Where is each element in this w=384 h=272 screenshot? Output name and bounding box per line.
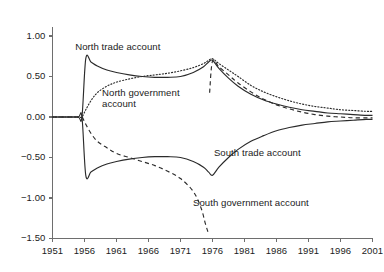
annotation-line-1: North government (102, 87, 180, 98)
series-south-trade-account (53, 113, 373, 179)
annotation-line-2: account (102, 98, 136, 109)
x-tick-label: 2001 (351, 245, 384, 256)
series-north-trade-account (53, 55, 373, 121)
annotation-south-government-account: South government account (193, 197, 309, 208)
y-tick-label: −0.50 (0, 151, 46, 162)
y-tick-label: 0.50 (0, 70, 46, 81)
chart-plot-area (0, 0, 384, 272)
annotation-north-government-account: North governmentaccount (102, 87, 180, 110)
y-tick-label: −1.00 (0, 192, 46, 203)
y-tick-label: 1.00 (0, 30, 46, 41)
annotation-north-trade-account: North trade account (75, 41, 160, 52)
annotation-south-trade-account: South trade account (214, 147, 301, 158)
y-tick-label: 0.00 (0, 111, 46, 122)
y-tick-label: −1.50 (0, 232, 46, 243)
chart-figure: 1.000.500.00−0.50−1.00−1.50 195119561961… (0, 0, 384, 272)
